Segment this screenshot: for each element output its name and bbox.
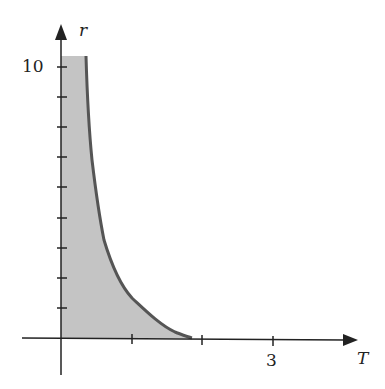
y-axis-arrow-icon xyxy=(55,24,67,40)
x-axis-arrow-icon xyxy=(343,334,358,346)
x-axis xyxy=(22,338,345,340)
x-tick-label-3: 3 xyxy=(266,350,277,370)
x-axis-label: T xyxy=(357,348,368,368)
shaded-region xyxy=(61,56,192,338)
y-tick-label-10: 10 xyxy=(22,56,44,76)
y-axis-label: r xyxy=(79,20,87,40)
chart-plot xyxy=(0,0,385,389)
